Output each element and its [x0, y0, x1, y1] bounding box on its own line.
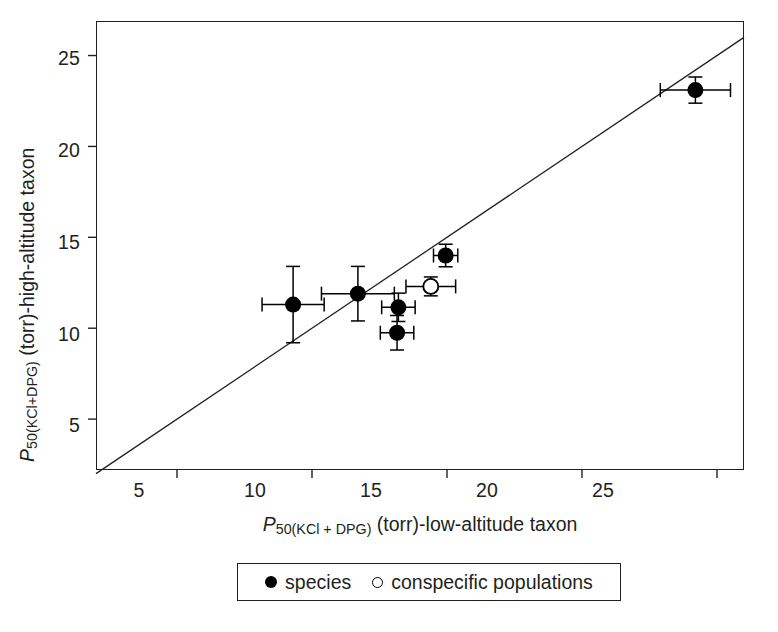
- filled-circle-icon: [265, 576, 277, 588]
- x-tick-label: 10: [244, 479, 266, 502]
- legend-item-conspecific-populations: conspecific populations: [372, 571, 593, 594]
- y-axis-title-symbol: P: [16, 449, 38, 462]
- y-tick-label: 10: [44, 323, 80, 346]
- y-tick-label: 15: [44, 231, 80, 254]
- y-tick-label: 20: [44, 139, 80, 162]
- scatter-plot-figure: 25 20 15 10 5 5 10 15 20 25 P50(KCl+DPG)…: [0, 0, 778, 632]
- x-tick-label: 25: [592, 479, 614, 502]
- x-tick-label: 15: [360, 479, 382, 502]
- legend: species conspecific populations: [237, 563, 621, 601]
- legend-label: conspecific populations: [391, 571, 593, 594]
- y-tick-label: 5: [44, 414, 80, 437]
- x-axis-title-subscript: 50(KCl + DPG): [276, 521, 372, 537]
- y-axis-title: P50(KCl+DPG) (torr)-high-altitude taxon: [16, 148, 39, 462]
- y-axis-title-subscript: 50(KCl+DPG): [24, 361, 40, 449]
- x-axis-title-symbol: P: [263, 513, 276, 535]
- x-tick-label: 5: [134, 479, 145, 502]
- y-tick-label: 25: [44, 47, 80, 70]
- y-axis-title-rest: (torr)-high-altitude taxon: [16, 148, 38, 362]
- x-axis-title-rest: (torr)-low-altitude taxon: [371, 513, 577, 535]
- plot-frame: [96, 21, 744, 470]
- legend-label: species: [285, 571, 351, 594]
- x-axis-title: P50(KCl + DPG) (torr)-low-altitude taxon: [263, 513, 578, 536]
- x-tick-label: 20: [476, 479, 498, 502]
- open-circle-icon: [372, 577, 383, 588]
- legend-item-species: species: [265, 571, 351, 594]
